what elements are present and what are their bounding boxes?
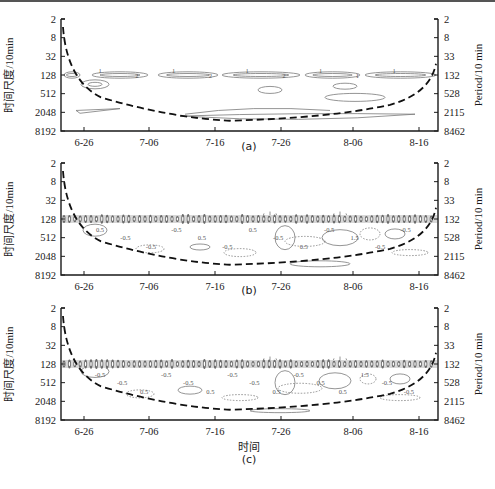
contour-label: -0.5	[293, 371, 303, 378]
contour-label: -0.5	[117, 379, 127, 386]
y-tick-label: 8	[51, 176, 56, 187]
y-axis-title-left: 时间尺度/10min	[2, 37, 15, 113]
y-tick-label: 8	[444, 321, 449, 332]
y-axis-title-right: Period/10 min	[472, 187, 484, 250]
y-tick-label: 2	[51, 14, 56, 25]
panel-caption: (c)	[242, 453, 257, 466]
y-tick-label: 2048	[35, 251, 56, 262]
y-tick-label: 8462	[444, 270, 465, 281]
wavelet-figure: 1212121112832128512204881922833132528211…	[0, 0, 495, 489]
y-tick-label: 8192	[35, 415, 56, 426]
y-tick-label: 8462	[444, 415, 465, 426]
contour-label: 1.5	[361, 371, 369, 378]
contour-label: -0.5	[146, 243, 156, 250]
x-tick-label: 7-06	[139, 281, 158, 292]
contour-label: 0.5	[249, 226, 257, 233]
y-tick-label: 2115	[444, 396, 465, 407]
contour-label: -0.5	[227, 371, 237, 378]
y-tick-label: 512	[40, 377, 56, 388]
x-tick-label: 7-16	[205, 137, 224, 148]
contour-label: 0.5	[140, 388, 148, 395]
power-band	[62, 359, 437, 369]
y-tick-label: 128	[40, 214, 56, 225]
contour-label: 1	[356, 72, 359, 79]
y-tick-label: 8	[51, 32, 56, 43]
contour-label: 1.5	[351, 234, 359, 241]
y-tick-label: 128	[40, 70, 56, 81]
x-axis: 6-267-067-167-268-068-16	[74, 416, 428, 437]
x-tick-label: 7-16	[205, 426, 224, 437]
y-axis-title-left: 时间尺度/10min	[2, 181, 15, 257]
y-tick-label: 8	[444, 176, 449, 187]
y-tick-label: 2	[51, 158, 56, 169]
contour-label: 1	[98, 67, 101, 74]
contour-labels: -0.5-0.50.5-0.5-0.50.5-0.5-0.50.5-0.50.5…	[95, 371, 414, 395]
y-tick-label: 528	[444, 232, 460, 243]
contour-layer	[64, 72, 436, 120]
y-tick-label: 132	[444, 214, 460, 225]
contour-label: -0.5	[161, 371, 171, 378]
contour-label: 2	[209, 72, 212, 79]
y-tick-label: 528	[444, 88, 460, 99]
y-axis-title-right: Period/10 min	[472, 43, 484, 106]
y-tick-label: 8192	[35, 126, 56, 137]
y-tick-label: 32	[46, 340, 57, 351]
y-tick-label: 8	[51, 321, 56, 332]
y-tick-label: 32	[46, 51, 57, 62]
y-tick-label: 8462	[444, 126, 465, 137]
contour-label: 1	[319, 67, 322, 74]
y-axis-title-right: Period/10 min	[472, 332, 484, 395]
x-tick-label: 6-26	[74, 281, 93, 292]
y-tick-label: 128	[40, 359, 56, 370]
panel-c: -0.5-0.50.5-0.5-0.50.5-0.5-0.50.5-0.50.5…	[2, 303, 484, 467]
x-tick-label: 7-16	[205, 281, 224, 292]
x-tick-label: 6-26	[74, 137, 93, 148]
y-tick-label: 32	[46, 195, 57, 206]
contour-label: 1	[393, 67, 396, 74]
contour-label: -0.5	[183, 379, 193, 386]
contour-label: -0.5	[95, 371, 105, 378]
contour-label: -0.5	[324, 226, 334, 233]
panel-a: 1212121112832128512204881922833132528211…	[2, 14, 484, 154]
x-tick-label: 6-26	[74, 426, 93, 437]
x-tick-label: 7-26	[271, 137, 290, 148]
contour-label: 0.5	[198, 234, 206, 241]
contour-label: 0.5	[96, 226, 104, 233]
y-axis-title-left: 时间尺度/10min	[2, 326, 15, 402]
panel-caption: (b)	[241, 284, 257, 297]
contour-label: 0.5	[272, 388, 280, 395]
x-tick-label: 8-16	[409, 137, 428, 148]
y-tick-label: 2	[444, 158, 449, 169]
x-tick-label: 7-26	[271, 281, 290, 292]
y-tick-label: 512	[40, 88, 56, 99]
y-tick-label: 2	[444, 303, 449, 314]
contour-label: -0.5	[171, 226, 181, 233]
y-tick-label: 2115	[444, 251, 465, 262]
contour-label: 2	[282, 72, 285, 79]
y-tick-label: 33	[444, 340, 455, 351]
contour-label: -0.5	[375, 243, 385, 250]
x-tick-label: 8-06	[343, 426, 362, 437]
y-tick-label: 528	[444, 377, 460, 388]
panel-caption: (a)	[241, 140, 256, 153]
x-tick-label: 7-06	[139, 426, 158, 437]
x-tick-label: 8-16	[409, 281, 428, 292]
panel-b: 0.5-0.5-0.5-0.50.5-0.50.5-0.50.5-0.51.5-…	[2, 158, 484, 298]
y-tick-label: 512	[40, 232, 56, 243]
x-tick-label: 7-26	[271, 426, 290, 437]
contour-label: 1	[245, 67, 248, 74]
contour-label: -0.5	[222, 243, 232, 250]
x-axis-title: 时间	[238, 441, 260, 454]
contour-label: -0.5	[382, 379, 392, 386]
contour-label: -0.5	[404, 388, 414, 395]
y-tick-label: 8192	[35, 270, 56, 281]
contour-label: 0.5	[317, 379, 325, 386]
y-tick-label: 33	[444, 195, 455, 206]
x-tick-label: 8-06	[343, 281, 362, 292]
y-tick-label: 2	[51, 303, 56, 314]
y-tick-label: 132	[444, 359, 460, 370]
contour-label: 0.5	[300, 243, 308, 250]
y-tick-label: 33	[444, 51, 455, 62]
y-tick-label: 2048	[35, 396, 56, 407]
x-tick-label: 8-16	[409, 426, 428, 437]
